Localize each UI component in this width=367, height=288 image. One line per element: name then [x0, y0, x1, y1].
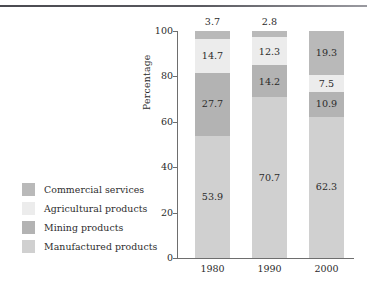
bar-segment-value-label: 27.7: [202, 99, 223, 109]
bar-segment-mining-products[interactable]: 14.2: [252, 65, 287, 97]
legend-swatch-manufactured-products: [22, 240, 35, 253]
x-tick-label-1990: 1990: [252, 263, 287, 274]
bar-segment-value-label: 7.5: [319, 79, 334, 89]
legend-swatch-agricultural-products: [22, 202, 35, 215]
legend-label-mining-products: Mining products: [44, 222, 123, 233]
y-tick-label: 40: [161, 160, 173, 173]
legend-swatch-commercial-services: [22, 183, 35, 196]
chart-legend: Commercial services Agricultural product…: [22, 180, 172, 256]
bar-segment-mining-products[interactable]: 10.9: [309, 92, 344, 117]
legend-item-manufactured-products: Manufactured products: [22, 237, 172, 256]
y-tick-mark: [173, 76, 177, 77]
legend-label-agricultural-products: Agricultural products: [44, 203, 147, 214]
bar-segment-commercial-services[interactable]: 19.3: [309, 31, 344, 75]
bar-2000[interactable]: 19.37.510.962.3: [309, 31, 344, 258]
plot-area: 020406080100 14.727.753.93.7198012.314.2…: [177, 31, 354, 258]
x-tick-label-1980: 1980: [195, 263, 230, 274]
y-tick-label: 60: [161, 115, 173, 128]
bar-1980[interactable]: 14.727.753.93.7: [195, 31, 230, 258]
y-tick-label: 80: [161, 69, 173, 82]
bar-segment-value-label: 53.9: [202, 192, 223, 202]
legend-label-manufactured-products: Manufactured products: [44, 241, 157, 252]
stacked-bar-chart-figure: Commercial services Agricultural product…: [0, 0, 367, 288]
bar-segment-manufactured-products[interactable]: 70.7: [252, 97, 287, 257]
y-tick-label: 100: [155, 24, 173, 37]
bar-segment-value-label: 62.3: [316, 182, 337, 192]
bar-segment-value-label: 14.2: [259, 77, 280, 87]
y-tick-mark: [173, 122, 177, 123]
bar-segment-value-label: 10.9: [316, 99, 337, 109]
bar-segment-manufactured-products[interactable]: 53.9: [195, 136, 230, 258]
bar-segment-value-label: 12.3: [259, 47, 280, 57]
x-axis-line: [177, 258, 354, 259]
y-tick-mark: [173, 258, 177, 259]
legend-label-commercial-services: Commercial services: [44, 184, 144, 195]
bar-1990[interactable]: 12.314.270.72.8: [252, 31, 287, 258]
legend-swatch-mining-products: [22, 221, 35, 234]
bar-segment-mining-products[interactable]: 27.7: [195, 73, 230, 136]
bar-top-value-label: 3.7: [205, 16, 220, 27]
bar-segment-agricultural-products[interactable]: 7.5: [309, 75, 344, 92]
y-axis-title: Percentage: [141, 54, 152, 110]
bar-segment-value-label: 70.7: [259, 173, 280, 183]
y-tick-label: 0: [167, 251, 173, 264]
y-tick-mark: [173, 167, 177, 168]
bar-segment-value-label: 14.7: [202, 51, 223, 61]
bar-segment-agricultural-products[interactable]: 12.3: [252, 37, 287, 65]
y-tick-label: 20: [161, 206, 173, 219]
bar-top-value-label: 2.8: [262, 16, 277, 27]
bar-segment-value-label: 19.3: [316, 48, 337, 58]
legend-item-mining-products: Mining products: [22, 218, 172, 237]
y-tick-mark: [173, 213, 177, 214]
legend-item-commercial-services: Commercial services: [22, 180, 172, 199]
x-tick-label-2000: 2000: [309, 263, 344, 274]
y-axis-line: [177, 31, 178, 258]
legend-item-agricultural-products: Agricultural products: [22, 199, 172, 218]
bar-segment-manufactured-products[interactable]: 62.3: [309, 117, 344, 258]
bar-segment-agricultural-products[interactable]: 14.7: [195, 39, 230, 72]
y-tick-mark: [173, 31, 177, 32]
bar-segment-commercial-services[interactable]: [195, 31, 230, 39]
